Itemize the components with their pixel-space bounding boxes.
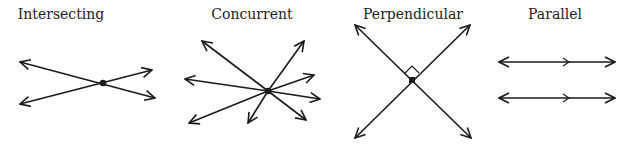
- diagram-canvas: [0, 0, 632, 157]
- perpendicular-point: [409, 77, 415, 83]
- intersecting-lines: [20, 62, 155, 104]
- right-angle-marker: [405, 66, 419, 73]
- intersection-point: [101, 81, 106, 86]
- concurrent-point: [266, 89, 271, 94]
- concurrent-lines: [185, 41, 320, 123]
- parallel-lines: [499, 58, 615, 102]
